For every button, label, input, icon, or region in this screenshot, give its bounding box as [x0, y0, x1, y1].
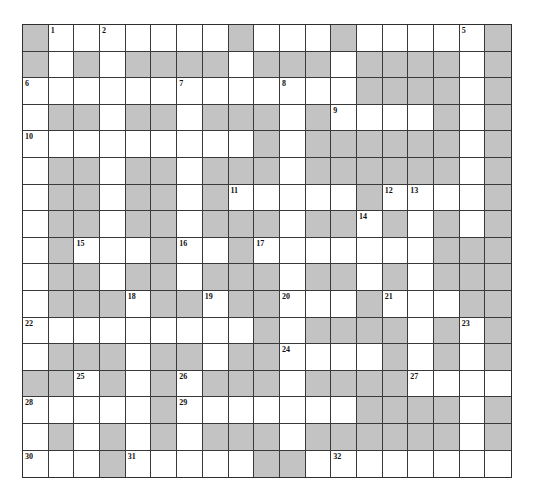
answer-cell[interactable]: 25: [74, 371, 100, 398]
answer-cell[interactable]: [254, 397, 280, 424]
answer-cell[interactable]: [408, 25, 434, 52]
answer-cell[interactable]: [100, 211, 126, 238]
answer-cell[interactable]: [460, 344, 486, 371]
answer-cell[interactable]: [23, 424, 49, 451]
answer-cell[interactable]: [331, 397, 357, 424]
answer-cell[interactable]: [434, 371, 460, 398]
answer-cell[interactable]: [203, 238, 229, 265]
answer-cell[interactable]: [460, 52, 486, 79]
answer-cell[interactable]: [331, 52, 357, 79]
answer-cell[interactable]: 24: [280, 344, 306, 371]
answer-cell[interactable]: [177, 158, 203, 185]
answer-cell[interactable]: [434, 451, 460, 478]
answer-cell[interactable]: [331, 185, 357, 212]
answer-cell[interactable]: 26: [177, 371, 203, 398]
answer-cell[interactable]: [23, 158, 49, 185]
answer-cell[interactable]: [254, 185, 280, 212]
answer-cell[interactable]: [383, 451, 409, 478]
answer-cell[interactable]: [151, 318, 177, 345]
answer-cell[interactable]: [357, 25, 383, 52]
answer-cell[interactable]: [357, 105, 383, 132]
answer-cell[interactable]: [280, 397, 306, 424]
answer-cell[interactable]: [203, 25, 229, 52]
answer-cell[interactable]: 10: [23, 131, 49, 158]
answer-cell[interactable]: [126, 131, 152, 158]
answer-cell[interactable]: [100, 264, 126, 291]
answer-cell[interactable]: [460, 397, 486, 424]
answer-cell[interactable]: [177, 211, 203, 238]
answer-cell[interactable]: [126, 371, 152, 398]
answer-cell[interactable]: [203, 318, 229, 345]
answer-cell[interactable]: 32: [331, 451, 357, 478]
answer-cell[interactable]: [383, 238, 409, 265]
answer-cell[interactable]: [254, 25, 280, 52]
answer-cell[interactable]: [383, 25, 409, 52]
answer-cell[interactable]: 20: [280, 291, 306, 318]
answer-cell[interactable]: [74, 397, 100, 424]
answer-cell[interactable]: [485, 371, 511, 398]
answer-cell[interactable]: [74, 78, 100, 105]
answer-cell[interactable]: [485, 451, 511, 478]
answer-cell[interactable]: [23, 291, 49, 318]
answer-cell[interactable]: [74, 318, 100, 345]
answer-cell[interactable]: [408, 211, 434, 238]
answer-cell[interactable]: [203, 344, 229, 371]
answer-cell[interactable]: 29: [177, 397, 203, 424]
answer-cell[interactable]: [357, 344, 383, 371]
answer-cell[interactable]: [306, 451, 332, 478]
answer-cell[interactable]: [306, 397, 332, 424]
answer-cell[interactable]: [306, 25, 332, 52]
answer-cell[interactable]: [126, 397, 152, 424]
answer-cell[interactable]: [408, 291, 434, 318]
answer-cell[interactable]: [357, 264, 383, 291]
answer-cell[interactable]: [100, 318, 126, 345]
answer-cell[interactable]: 2: [100, 25, 126, 52]
answer-cell[interactable]: [23, 105, 49, 132]
answer-cell[interactable]: [49, 397, 75, 424]
answer-cell[interactable]: [434, 25, 460, 52]
answer-cell[interactable]: [151, 25, 177, 52]
answer-cell[interactable]: [74, 131, 100, 158]
answer-cell[interactable]: [408, 344, 434, 371]
answer-cell[interactable]: [280, 371, 306, 398]
answer-cell[interactable]: [306, 291, 332, 318]
answer-cell[interactable]: [177, 185, 203, 212]
answer-cell[interactable]: [306, 185, 332, 212]
answer-cell[interactable]: 18: [126, 291, 152, 318]
answer-cell[interactable]: [177, 424, 203, 451]
answer-cell[interactable]: 17: [254, 238, 280, 265]
answer-cell[interactable]: 27: [408, 371, 434, 398]
answer-cell[interactable]: [229, 52, 255, 79]
answer-cell[interactable]: [203, 397, 229, 424]
answer-cell[interactable]: [460, 371, 486, 398]
answer-cell[interactable]: 12: [383, 185, 409, 212]
answer-cell[interactable]: [100, 52, 126, 79]
answer-cell[interactable]: [280, 318, 306, 345]
answer-cell[interactable]: [100, 238, 126, 265]
answer-cell[interactable]: [74, 451, 100, 478]
answer-cell[interactable]: [331, 238, 357, 265]
answer-cell[interactable]: [280, 105, 306, 132]
answer-cell[interactable]: [151, 78, 177, 105]
answer-cell[interactable]: [280, 131, 306, 158]
answer-cell[interactable]: [126, 424, 152, 451]
answer-cell[interactable]: [331, 78, 357, 105]
answer-cell[interactable]: 28: [23, 397, 49, 424]
answer-cell[interactable]: [280, 424, 306, 451]
answer-cell[interactable]: [306, 78, 332, 105]
answer-cell[interactable]: [203, 451, 229, 478]
answer-cell[interactable]: [229, 78, 255, 105]
answer-cell[interactable]: [177, 318, 203, 345]
answer-cell[interactable]: 15: [74, 238, 100, 265]
answer-cell[interactable]: [357, 451, 383, 478]
answer-cell[interactable]: [460, 211, 486, 238]
answer-cell[interactable]: [126, 344, 152, 371]
answer-cell[interactable]: [229, 397, 255, 424]
answer-cell[interactable]: [280, 238, 306, 265]
answer-cell[interactable]: [460, 105, 486, 132]
answer-cell[interactable]: [229, 131, 255, 158]
answer-cell[interactable]: [254, 78, 280, 105]
answer-cell[interactable]: 8: [280, 78, 306, 105]
answer-cell[interactable]: 7: [177, 78, 203, 105]
answer-cell[interactable]: [434, 185, 460, 212]
